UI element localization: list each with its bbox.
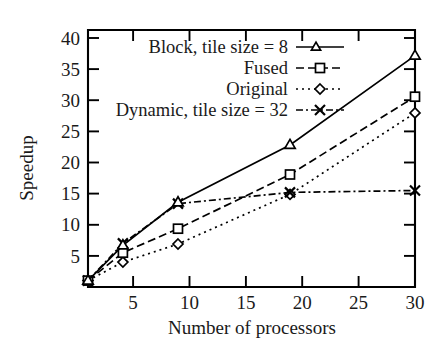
- chart-canvas: 5 10 15 20 25 30 35 40 5 10 15 20 25 30 …: [0, 0, 443, 355]
- series-fused-line: [88, 97, 415, 281]
- legend-label-block: Block, tile size = 8: [149, 37, 288, 57]
- x-tick-label-25: 25: [349, 292, 368, 313]
- x-tick-label-5: 5: [128, 292, 138, 313]
- series-dynamic: [83, 186, 420, 286]
- y-tick-label-10: 10: [61, 214, 80, 235]
- series-original: [83, 108, 420, 286]
- x-tick-label-20: 20: [293, 292, 312, 313]
- square-marker-icon: [174, 224, 183, 233]
- x-axis-tick-labels: 5 10 15 20 25 30: [128, 292, 424, 313]
- legend-sample-fused: [296, 64, 344, 73]
- diamond-marker-icon: [118, 257, 128, 267]
- y-tick-label-5: 5: [71, 246, 81, 267]
- y-tick-label-30: 30: [61, 90, 80, 111]
- y-tick-label-35: 35: [61, 59, 80, 80]
- diamond-marker-icon: [410, 108, 420, 118]
- x-axis-title: Number of processors: [168, 317, 336, 338]
- square-marker-icon: [286, 170, 295, 179]
- triangle-marker-icon: [410, 50, 420, 59]
- series-dynamic-line: [88, 191, 415, 281]
- legend-label-fused: Fused: [244, 58, 289, 78]
- diamond-marker-icon: [173, 239, 183, 249]
- triangle-marker-icon: [311, 42, 320, 50]
- legend-label-original: Original: [226, 79, 288, 99]
- y-axis-title: Speedup: [16, 135, 37, 200]
- legend-sample-dynamic: [296, 105, 344, 115]
- y-tick-label-15: 15: [61, 183, 80, 204]
- diamond-marker-icon: [315, 84, 325, 94]
- legend-label-dynamic: Dynamic, tile size = 32: [116, 100, 288, 120]
- series-original-line: [88, 113, 415, 281]
- speedup-line-chart-figure: 5 10 15 20 25 30 35 40 5 10 15 20 25 30 …: [0, 0, 443, 355]
- legend-sample-original: [296, 84, 344, 94]
- legend-sample-block: [296, 42, 344, 50]
- y-axis-tick-labels: 5 10 15 20 25 30 35 40: [61, 28, 80, 267]
- y-tick-label-25: 25: [61, 121, 80, 142]
- triangle-marker-icon: [285, 139, 295, 148]
- y-tick-label-40: 40: [61, 28, 80, 49]
- series-fused: [84, 92, 420, 285]
- y-tick-label-20: 20: [61, 152, 80, 173]
- chart-legend: Block, tile size = 8 Fused Original Dyna…: [116, 37, 344, 120]
- square-marker-icon: [411, 92, 420, 101]
- x-tick-label-10: 10: [180, 292, 199, 313]
- square-marker-icon: [316, 64, 325, 73]
- x-tick-label-15: 15: [236, 292, 255, 313]
- x-tick-label-30: 30: [406, 292, 425, 313]
